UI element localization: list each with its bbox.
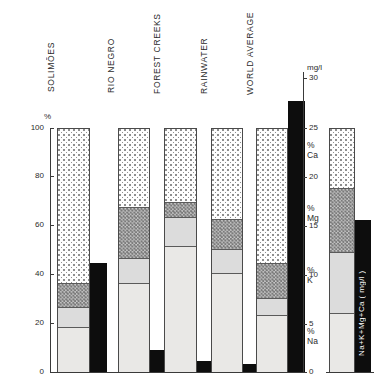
legend-ca: % Ca (307, 140, 318, 160)
stacked-bar-forest-creeks (164, 128, 197, 373)
right-tick-5 (303, 324, 307, 325)
segment-mg (58, 283, 89, 307)
segment-mg (165, 202, 196, 217)
legend-na-symbol: % (307, 326, 318, 336)
segment-na (58, 327, 89, 373)
segment-k (119, 258, 149, 283)
right-tick-25 (303, 128, 307, 129)
legend-mg-symbol: % (307, 203, 319, 213)
right-tick-30 (303, 78, 307, 79)
segment-ca (165, 129, 196, 202)
main-baseline (50, 372, 306, 373)
legend-segment-mg (330, 188, 354, 252)
legend-k-label: K (307, 275, 315, 285)
segment-mg (212, 219, 242, 249)
right-axis-line (303, 72, 304, 373)
legend-mg: % Mg (307, 203, 319, 223)
legend-total-caption: Na+K+Mg+Ca ( mg/l ) (357, 228, 366, 356)
segment-mg (257, 263, 287, 298)
segment-ca (212, 129, 242, 219)
stacked-bar-rainwater (211, 128, 243, 373)
left-tick-label-100: 100 (22, 123, 44, 132)
segment-na (119, 283, 149, 373)
segment-na (165, 246, 196, 373)
category-label-world-average: WORLD AVERAGE (245, 9, 255, 95)
left-axis-line (50, 128, 51, 372)
segment-na (212, 273, 242, 373)
legend-segment-ca (330, 129, 354, 188)
left-tick-label-40: 40 (22, 269, 44, 278)
category-label-rio-negro: RIO NEGRO (106, 23, 116, 93)
right-tick-15 (303, 226, 307, 227)
left-tick-20 (50, 323, 54, 324)
right-tick-label-30: 30 (309, 73, 329, 82)
segment-ca (119, 129, 149, 207)
segment-k (257, 298, 287, 315)
stacked-bar-rio-negro (118, 128, 150, 373)
legend-baseline (326, 372, 374, 373)
left-tick-label-0: 0 (22, 367, 44, 376)
right-axis-unit: mg/l (307, 63, 322, 72)
legend-segment-k (330, 252, 354, 313)
segment-ca (58, 129, 89, 283)
right-tick-label-25: 25 (309, 123, 329, 132)
segment-mg (119, 207, 149, 258)
left-tick-label-20: 20 (22, 318, 44, 327)
category-label-rainwater: RAINWATER (199, 22, 209, 94)
stacked-bar-solimoes (57, 128, 90, 373)
right-tick-label-20: 20 (309, 172, 329, 181)
segment-k (165, 217, 196, 246)
left-tick-40 (50, 274, 54, 275)
legend-ca-symbol: % (307, 140, 318, 150)
left-tick-60 (50, 225, 54, 226)
category-label-solimoes: SOLIMÕES (46, 14, 56, 92)
legend-segment-na (330, 313, 354, 373)
right-tick-20 (303, 177, 307, 178)
left-axis-unit: % (44, 112, 51, 121)
segment-ca (257, 129, 287, 263)
left-tick-80 (50, 176, 54, 177)
left-tick-label-80: 80 (22, 171, 44, 180)
legend-na-label: Na (307, 336, 318, 346)
category-label-forest-creeks: FOREST CREEKS (152, 8, 162, 94)
legend-ca-label: Ca (307, 150, 318, 160)
legend-k-symbol: % (307, 265, 315, 275)
segment-na (257, 315, 287, 373)
total-concentration-bar-solimoes (90, 263, 107, 373)
left-tick-label-60: 60 (22, 220, 44, 229)
figure-canvas: SOLIMÕES RIO NEGRO FOREST CREEKS RAINWAT… (0, 0, 386, 391)
left-tick-100 (50, 128, 54, 129)
segment-k (212, 249, 242, 273)
legend-key-stacked-bar (329, 128, 355, 373)
legend-k: % K (307, 265, 315, 285)
segment-k (58, 307, 89, 327)
legend-mg-label: Mg (307, 213, 319, 223)
legend-na: % Na (307, 326, 318, 346)
stacked-bar-world-average (256, 128, 288, 373)
